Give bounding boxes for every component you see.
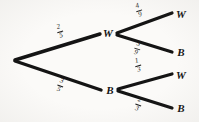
branch-w-to-b <box>117 35 172 52</box>
node-label-leaf-wb: B <box>177 47 184 58</box>
branch-root-to-w <box>15 34 100 60</box>
branch-b-to-b <box>118 91 172 108</box>
branch-w-to-w <box>117 13 172 33</box>
node-label-leaf-ww: W <box>176 9 186 20</box>
node-label-stage1-b: B <box>106 85 113 96</box>
branch-b-to-w <box>118 74 172 89</box>
probability-tree-diagram: W B W B W B 2 5 3 5 4 9 5 9 <box>0 0 199 122</box>
node-label-leaf-bb: B <box>177 103 184 114</box>
node-label-leaf-bw: W <box>176 70 186 81</box>
node-label-stage1-w: W <box>103 28 113 39</box>
tree-branches-group <box>0 0 199 122</box>
